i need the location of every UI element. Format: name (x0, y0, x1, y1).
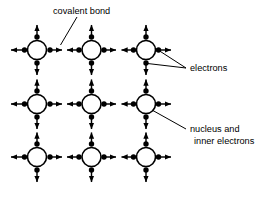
atom-nucleus-r1-c3 (137, 41, 156, 60)
covalent-lattice-svg: covalent bond electrons nucleus and inne… (0, 0, 268, 198)
diagram-canvas: covalent bond electrons nucleus and inne… (0, 0, 268, 198)
atom-nucleus-r1-c1 (28, 41, 47, 60)
label-nucleus-line2: inner electrons (194, 136, 255, 146)
atom-nucleus-r1-c2 (82, 41, 101, 60)
label-covalent-bond: covalent bond (53, 6, 110, 16)
atom-nucleus-r3-c1 (28, 148, 47, 167)
atom-nucleus-r3-c3 (137, 148, 156, 167)
atom-nucleus-r2-c1 (28, 95, 47, 114)
atom-nucleus-r3-c2 (82, 148, 101, 167)
label-nucleus-line1: nucleus and (190, 124, 240, 134)
atom-nucleus-r2-c2 (82, 95, 101, 114)
label-electrons: electrons (190, 63, 228, 73)
